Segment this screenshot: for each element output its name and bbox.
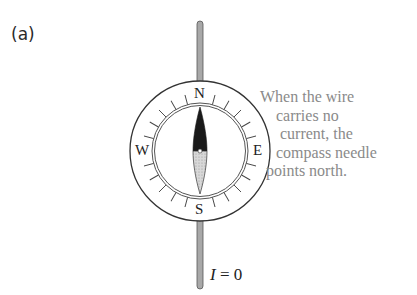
equals-sign: = (216, 265, 234, 284)
caption-line: points north. (266, 162, 377, 181)
caption: When the wire carries no current, the co… (258, 88, 377, 181)
caption-line: carries no (276, 107, 377, 126)
compass-south-label: S (195, 202, 203, 217)
needle-pivot (198, 149, 202, 153)
compass-north-label: N (194, 86, 205, 101)
current-label: I = 0 (210, 265, 242, 285)
current-value: 0 (234, 265, 243, 284)
compass (130, 81, 270, 221)
caption-line: When the wire (260, 88, 377, 107)
caption-line: compass needle (276, 144, 377, 163)
compass-west-label: W (135, 143, 149, 158)
caption-line: current, the (280, 125, 377, 144)
